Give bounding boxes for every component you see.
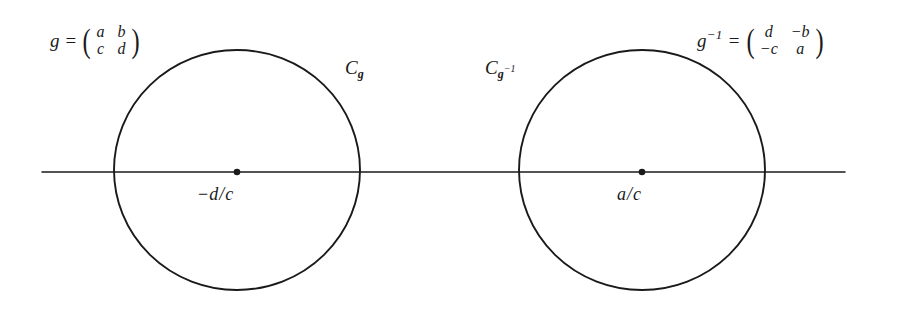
matrix-ginv-paren-left: (: [746, 27, 754, 55]
matrix-g-paren-right: ): [131, 27, 139, 55]
center-dot-cg-inverse: [639, 169, 646, 176]
center-label-cg-denominator: c: [225, 184, 233, 204]
circle-label-cg: Cg: [345, 58, 364, 77]
center-label-cginv-slash: /: [627, 184, 632, 204]
matrix-g-entry-d: d: [118, 41, 126, 57]
matrix-equation-g: g = ( a b c d ): [50, 24, 141, 57]
matrix-g-entries: a b c d: [94, 24, 129, 57]
circle-label-cg-letter: C: [345, 57, 358, 78]
matrix-ginv-entry-d: d: [765, 24, 773, 40]
matrix-g-entry-b: b: [118, 24, 126, 40]
isometric-circles-figure: g = ( a b c d ) g−1 = ( d −b −c a ) Cg C…: [0, 0, 901, 314]
matrix-g-entry-c: c: [97, 41, 104, 57]
circle-label-cginv-subscript-superscript: −1: [504, 63, 516, 74]
matrix-g-equals: =: [66, 31, 77, 50]
matrix-ginv-superscript: −1: [707, 28, 723, 41]
center-label-cg-numerator: d: [209, 184, 218, 204]
circle-label-cg-inverse: Cg−1: [485, 58, 515, 77]
matrix-g-paren-left: (: [83, 27, 91, 55]
center-label-cg-slash: /: [219, 184, 224, 204]
matrix-g-variable: g: [50, 31, 60, 50]
matrix-ginv-paren-right: ): [815, 27, 823, 55]
matrix-ginv-variable: g: [697, 31, 707, 50]
matrix-ginv-entry-a: a: [796, 41, 804, 57]
matrix-g-entry-a: a: [97, 24, 105, 40]
matrix-equation-g-inverse: g−1 = ( d −b −c a ): [697, 24, 825, 57]
center-label-cginv-denominator: c: [633, 184, 641, 204]
center-dot-cg: [234, 169, 241, 176]
center-label-cg-inverse: a/c: [617, 185, 641, 203]
center-label-cginv-numerator: a: [617, 184, 626, 204]
center-label-cg-sign: −: [198, 184, 208, 204]
circle-label-cg-subscript: g: [358, 67, 364, 81]
circle-label-cginv-letter: C: [485, 57, 498, 78]
center-label-cg: −d/c: [198, 185, 233, 203]
matrix-ginv-entries: d −b −c a: [757, 24, 813, 57]
matrix-ginv-entry-neg-b: −b: [791, 24, 810, 40]
matrix-ginv-equals: =: [729, 31, 740, 50]
matrix-ginv-entry-neg-c: −c: [760, 41, 778, 57]
circle-label-cginv-subscript: g: [498, 67, 504, 81]
